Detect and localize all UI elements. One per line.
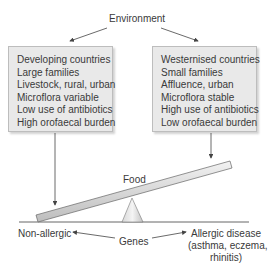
right-box-item: Low orofaecal burden: [161, 117, 256, 130]
left-box-item: Large families: [17, 67, 112, 80]
allergic-disease-line3: rhinitis): [188, 252, 264, 264]
westernised-countries-box: Westernised countries Small families Aff…: [152, 46, 257, 132]
left-box-item: Low use of antibiotics: [17, 104, 112, 117]
environment-arrow-left: [70, 28, 107, 41]
genes-arrow-left: [73, 232, 115, 238]
environment-label: Environment: [109, 13, 165, 25]
genes-label: Genes: [119, 236, 148, 248]
developing-countries-box: Developing countries Large families Live…: [8, 46, 113, 132]
fulcrum-triangle: [122, 198, 143, 222]
left-box-item: Developing countries: [17, 54, 112, 67]
right-box-item: Affluence, urban: [161, 79, 256, 92]
right-box-item: Westernised countries: [161, 54, 256, 67]
left-box-item: High orofaecal burden: [17, 117, 112, 130]
allergic-disease-line1: Allergic disease: [188, 228, 264, 240]
left-box-item: Livestock, rural, urban: [17, 79, 112, 92]
right-box-item: Microflora stable: [161, 92, 256, 105]
non-allergic-label: Non-allergic: [18, 228, 71, 240]
environment-arrow-right: [161, 28, 198, 41]
right-box-item: High use of antibiotics: [161, 104, 256, 117]
genes-arrow-right: [152, 232, 186, 238]
left-box-item: Microflora variable: [17, 92, 112, 105]
allergic-disease-label: Allergic disease (asthma, eczema, rhinit…: [188, 228, 264, 264]
allergic-disease-line2: (asthma, eczema,: [188, 240, 264, 252]
right-box-item: Small families: [161, 67, 256, 80]
food-label: Food: [123, 174, 146, 186]
